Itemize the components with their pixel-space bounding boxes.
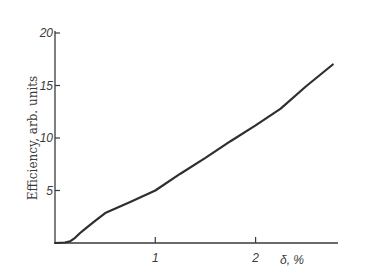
efficiency-chart: 5101520 12 Efficiency, arb. units δ, %: [0, 0, 368, 278]
efficiency-curve: [55, 65, 333, 244]
y-tick-label: 10: [40, 131, 54, 145]
x-axis-title: δ, %: [280, 253, 304, 267]
x-tick-label: 1: [152, 251, 159, 265]
x-ticks: 12: [152, 237, 259, 265]
x-tick-label: 2: [251, 251, 259, 265]
y-ticks: 5101520: [39, 26, 60, 198]
y-tick-label: 20: [39, 26, 54, 40]
y-axis-title: Efficiency, arb. units: [26, 76, 40, 201]
y-tick-label: 5: [46, 184, 53, 198]
y-tick-label: 15: [40, 79, 54, 93]
